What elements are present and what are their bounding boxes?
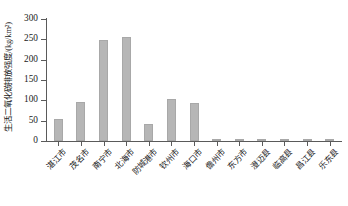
y-tick-label: 0 — [0, 136, 38, 145]
bar — [280, 139, 289, 141]
bar — [235, 139, 244, 141]
bar — [99, 40, 108, 141]
bar — [54, 119, 63, 141]
plot-area — [47, 19, 341, 141]
y-tick-label: 300 — [0, 14, 38, 23]
y-tick-mark — [41, 141, 47, 142]
x-tick-mark — [330, 142, 331, 146]
bar — [303, 139, 312, 141]
x-tick-mark — [262, 142, 263, 146]
bar — [257, 139, 266, 141]
bar — [212, 139, 221, 141]
y-tick-label: 50 — [0, 116, 38, 125]
x-tick-mark — [307, 142, 308, 146]
x-tick-mark — [149, 142, 150, 146]
bar-chart: 生活二氧化碳排放强度/(kg/km²) 050100150200250300 湛… — [0, 0, 348, 206]
bar — [325, 139, 334, 141]
x-tick-mark — [81, 142, 82, 146]
bar — [76, 102, 85, 141]
bar — [144, 124, 153, 141]
x-tick-mark — [58, 142, 59, 146]
y-tick-label: 200 — [0, 55, 38, 64]
bar — [167, 99, 176, 141]
y-tick-label: 150 — [0, 75, 38, 84]
bar — [190, 103, 199, 141]
x-tick-mark — [104, 142, 105, 146]
x-tick-mark — [171, 142, 172, 146]
x-tick-mark — [284, 142, 285, 146]
y-tick-label: 250 — [0, 34, 38, 43]
x-tick-mark — [239, 142, 240, 146]
bar — [122, 37, 131, 141]
x-tick-mark — [194, 142, 195, 146]
x-tick-mark — [217, 142, 218, 146]
x-tick-mark — [126, 142, 127, 146]
y-tick-label: 100 — [0, 95, 38, 104]
